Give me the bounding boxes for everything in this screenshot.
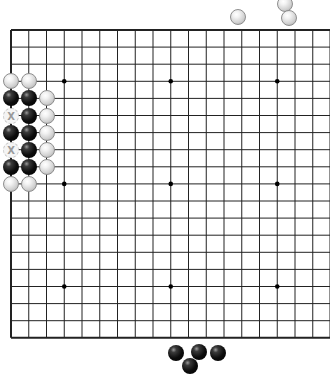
black-stone[interactable] [3,125,19,141]
star-point [168,79,173,84]
star-point [168,182,173,187]
white-stone[interactable] [39,125,55,141]
star-point [168,284,173,289]
white-stone[interactable] [21,176,37,192]
captured-white-stone [230,9,246,25]
star-point [62,182,67,187]
white-stone[interactable] [39,159,55,175]
white-stone[interactable] [39,108,55,124]
star-point [275,79,280,84]
black-stone[interactable] [21,108,37,124]
captured-black-stone [191,344,207,360]
captured-black-stone [168,345,184,361]
x-marker-icon: X [3,108,19,124]
captured-black-stone [182,358,198,374]
black-stone[interactable] [21,159,37,175]
captured-black-stone [210,345,226,361]
white-stone[interactable] [39,142,55,158]
star-point [62,284,67,289]
star-point [275,284,280,289]
captured-white-stone [281,10,297,26]
x-marker-icon: X [3,142,19,158]
white-stone[interactable] [3,176,19,192]
star-point [275,182,280,187]
star-point [62,79,67,84]
black-stone[interactable] [3,159,19,175]
white-stone[interactable] [21,73,37,89]
black-stone[interactable] [21,142,37,158]
black-stone[interactable] [21,125,37,141]
white-stone[interactable] [39,90,55,106]
